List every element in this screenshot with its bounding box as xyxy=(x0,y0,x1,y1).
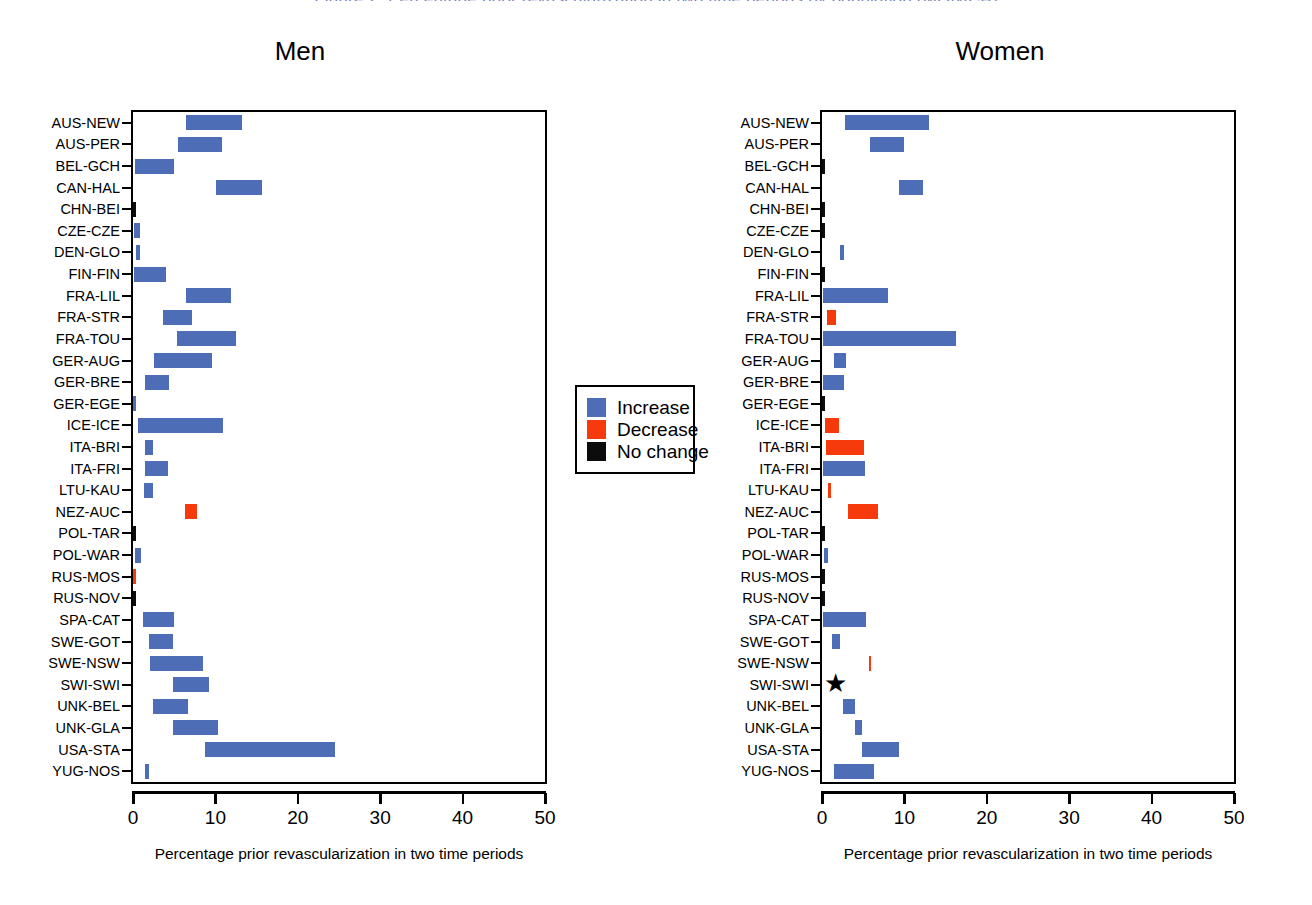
legend-label-decrease: Decrease xyxy=(617,420,698,439)
legend: Increase Decrease No change xyxy=(575,385,695,474)
x-tick-label-women-10: 10 xyxy=(884,807,924,829)
y-axis-label-women-fra-tou: FRA-TOU xyxy=(710,332,809,346)
y-tick-women-unk-bel xyxy=(811,705,821,707)
y-axis-label-men-yug-nos: YUG-NOS xyxy=(21,764,120,778)
y-tick-men-den-glo xyxy=(122,251,132,253)
bar-men-aus-per xyxy=(178,137,222,152)
y-axis-label-men-fra-str: FRA-STR xyxy=(21,310,120,324)
bar-women-cze-cze xyxy=(822,223,825,238)
y-axis-label-men-unk-bel: UNK-BEL xyxy=(21,699,120,713)
y-tick-men-ger-aug xyxy=(122,360,132,362)
legend-swatch-decrease-icon xyxy=(587,420,606,439)
y-tick-men-nez-auc xyxy=(122,511,132,513)
y-axis-label-women-usa-sta: USA-STA xyxy=(710,743,809,757)
bar-men-swe-nsw xyxy=(150,656,203,671)
bar-men-ita-bri xyxy=(145,440,153,455)
y-tick-women-aus-new xyxy=(811,122,821,124)
y-tick-women-ltu-kau xyxy=(811,489,821,491)
x-tick-label-women-50: 50 xyxy=(1214,807,1254,829)
x-tick-label-women-30: 30 xyxy=(1049,807,1089,829)
y-axis-label-men-ita-bri: ITA-BRI xyxy=(21,440,120,454)
y-tick-men-pol-tar xyxy=(122,532,132,534)
y-tick-women-unk-gla xyxy=(811,727,821,729)
bar-men-cze-cze xyxy=(134,223,140,238)
clipped-figure-title: Figure 2. Percentage prior revasculariza… xyxy=(0,0,1312,1)
y-axis-label-men-swe-nsw: SWE-NSW xyxy=(21,656,120,670)
legend-swatch-nochange-icon xyxy=(587,442,606,461)
x-tick-women-40 xyxy=(1151,793,1154,804)
y-axis-label-women-can-hal: CAN-HAL xyxy=(710,181,809,195)
bar-women-ger-bre xyxy=(823,375,844,390)
x-tick-women-0 xyxy=(821,793,824,804)
y-axis-label-men-swi-swi: SWI-SWI xyxy=(21,678,120,692)
bar-men-fra-lil xyxy=(186,288,231,303)
bar-men-yug-nos xyxy=(145,764,150,779)
y-axis-label-women-ita-bri: ITA-BRI xyxy=(710,440,809,454)
y-axis-label-men-ita-fri: ITA-FRI xyxy=(21,462,120,476)
panel-title-men: Men xyxy=(0,36,600,67)
y-tick-women-cze-cze xyxy=(811,230,821,232)
bar-men-rus-mos xyxy=(133,569,136,584)
bar-women-ice-ice xyxy=(825,418,839,433)
bar-women-rus-nov xyxy=(822,591,825,606)
legend-label-nochange: No change xyxy=(617,442,709,461)
bar-men-ger-bre xyxy=(145,375,170,390)
bar-men-pol-tar xyxy=(133,526,136,541)
y-tick-men-rus-nov xyxy=(122,597,132,599)
x-tick-men-40 xyxy=(462,793,465,804)
bar-women-ger-ege xyxy=(822,396,825,411)
y-axis-label-women-swe-nsw: SWE-NSW xyxy=(710,656,809,670)
y-tick-men-bel-gch xyxy=(122,165,132,167)
x-axis-title-men: Percentage prior revascularization in tw… xyxy=(89,845,589,863)
y-axis-label-women-ice-ice: ICE-ICE xyxy=(710,418,809,432)
bar-women-pol-tar xyxy=(822,526,825,541)
bar-women-fra-str xyxy=(827,310,836,325)
figure-root: Figure 2. Percentage prior revasculariza… xyxy=(0,0,1312,905)
y-axis-label-men-ger-aug: GER-AUG xyxy=(21,354,120,368)
y-axis-label-women-chn-bei: CHN-BEI xyxy=(710,202,809,216)
bar-men-can-hal xyxy=(216,180,261,195)
y-tick-women-ita-bri xyxy=(811,446,821,448)
y-axis-label-men-aus-new: AUS-NEW xyxy=(21,116,120,130)
bar-men-aus-new xyxy=(186,115,242,130)
y-axis-label-women-unk-bel: UNK-BEL xyxy=(710,699,809,713)
y-tick-women-nez-auc xyxy=(811,511,821,513)
y-axis-label-men-nez-auc: NEZ-AUC xyxy=(21,505,120,519)
bar-men-bel-gch xyxy=(135,159,175,174)
y-tick-men-fra-lil xyxy=(122,295,132,297)
y-tick-women-ita-fri xyxy=(811,468,821,470)
bar-men-ltu-kau xyxy=(144,483,153,498)
x-tick-label-women-0: 0 xyxy=(802,807,842,829)
y-axis-label-women-den-glo: DEN-GLO xyxy=(710,245,809,259)
y-axis-label-women-cze-cze: CZE-CZE xyxy=(710,224,809,238)
y-tick-men-fin-fin xyxy=(122,273,132,275)
y-axis-label-men-cze-cze: CZE-CZE xyxy=(21,224,120,238)
y-tick-men-ice-ice xyxy=(122,424,132,426)
bar-women-aus-per xyxy=(870,137,905,152)
bar-men-fra-str xyxy=(163,310,192,325)
y-tick-women-ger-ege xyxy=(811,403,821,405)
bar-men-spa-cat xyxy=(143,612,174,627)
bar-women-ger-aug xyxy=(834,353,846,368)
panel-title-women: Women xyxy=(700,36,1300,67)
y-axis-label-women-swi-swi: SWI-SWI xyxy=(710,678,809,692)
y-tick-women-rus-nov xyxy=(811,597,821,599)
y-tick-men-unk-gla xyxy=(122,727,132,729)
y-tick-women-ger-aug xyxy=(811,360,821,362)
y-tick-women-ice-ice xyxy=(811,424,821,426)
y-axis-label-women-pol-war: POL-WAR xyxy=(710,548,809,562)
x-tick-men-10 xyxy=(214,793,217,804)
y-axis-label-women-ita-fri: ITA-FRI xyxy=(710,462,809,476)
y-axis-label-women-pol-tar: POL-TAR xyxy=(710,526,809,540)
x-tick-men-0 xyxy=(132,793,135,804)
bar-men-den-glo xyxy=(136,245,140,260)
bar-men-ita-fri xyxy=(145,461,168,476)
y-axis-label-men-unk-gla: UNK-GLA xyxy=(21,721,120,735)
x-tick-women-10 xyxy=(903,793,906,804)
y-tick-women-fra-tou xyxy=(811,338,821,340)
y-axis-label-men-spa-cat: SPA-CAT xyxy=(21,613,120,627)
y-tick-women-fra-lil xyxy=(811,295,821,297)
y-axis-label-men-fin-fin: FIN-FIN xyxy=(21,267,120,281)
y-axis-label-men-usa-sta: USA-STA xyxy=(21,743,120,757)
y-axis-label-women-ger-ege: GER-EGE xyxy=(710,397,809,411)
